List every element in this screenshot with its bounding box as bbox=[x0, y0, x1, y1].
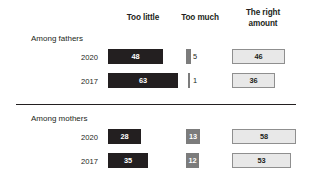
column-header-right-amount-line2: amount bbox=[249, 19, 278, 28]
bar-value-fathers-2017-too-much: 1 bbox=[193, 73, 197, 88]
bar-value-fathers-2020-right-amount: 46 bbox=[254, 53, 262, 60]
group-label-among-mothers: Among mothers bbox=[31, 114, 87, 123]
bar-mothers-2017-right-amount: 53 bbox=[232, 153, 291, 168]
bar-mothers-2020-right-amount: 58 bbox=[232, 129, 296, 144]
grouped-bar-chart: Too little Too much The right amount Amo… bbox=[0, 0, 309, 189]
bar-value-mothers-2017-too-much: 12 bbox=[188, 157, 196, 164]
bar-value-fathers-2020-too-much: 5 bbox=[193, 49, 197, 64]
column-header-too-much: Too much bbox=[172, 13, 228, 24]
bar-value-fathers-2020-too-little: 48 bbox=[131, 53, 139, 60]
bar-value-mothers-2020-too-much: 13 bbox=[189, 133, 197, 140]
column-header-right-amount: The right amount bbox=[230, 8, 296, 29]
row-label-fathers-2017: 2017 bbox=[64, 77, 98, 86]
bar-fathers-2017-too-much bbox=[188, 73, 190, 88]
bar-mothers-2017-too-much: 12 bbox=[186, 153, 199, 168]
row-label-fathers-2020: 2020 bbox=[64, 53, 98, 62]
bar-value-mothers-2020-right-amount: 58 bbox=[260, 133, 268, 140]
bar-value-mothers-2017-too-little: 35 bbox=[124, 157, 132, 164]
bar-value-fathers-2017-too-little: 63 bbox=[139, 77, 147, 84]
bar-mothers-2020-too-little: 28 bbox=[108, 129, 141, 144]
bar-fathers-2020-too-much bbox=[186, 49, 191, 64]
bar-value-mothers-2020-too-little: 28 bbox=[120, 133, 128, 140]
bar-value-fathers-2017-right-amount: 36 bbox=[249, 77, 257, 84]
bar-mothers-2017-too-little: 35 bbox=[108, 153, 148, 168]
group-label-among-fathers: Among fathers bbox=[31, 34, 83, 43]
section-divider bbox=[16, 104, 296, 105]
bar-fathers-2020-right-amount: 46 bbox=[232, 49, 285, 64]
row-label-mothers-2017: 2017 bbox=[64, 157, 98, 166]
bar-fathers-2017-too-little: 63 bbox=[108, 73, 178, 88]
column-header-right-amount-line1: The right bbox=[246, 8, 280, 17]
bar-mothers-2020-too-much: 13 bbox=[186, 129, 200, 144]
bar-value-mothers-2017-right-amount: 53 bbox=[257, 157, 265, 164]
bar-fathers-2020-too-little: 48 bbox=[108, 49, 163, 64]
bar-fathers-2017-right-amount: 36 bbox=[232, 73, 275, 88]
column-header-too-little: Too little bbox=[108, 13, 178, 24]
row-label-mothers-2020: 2020 bbox=[64, 133, 98, 142]
